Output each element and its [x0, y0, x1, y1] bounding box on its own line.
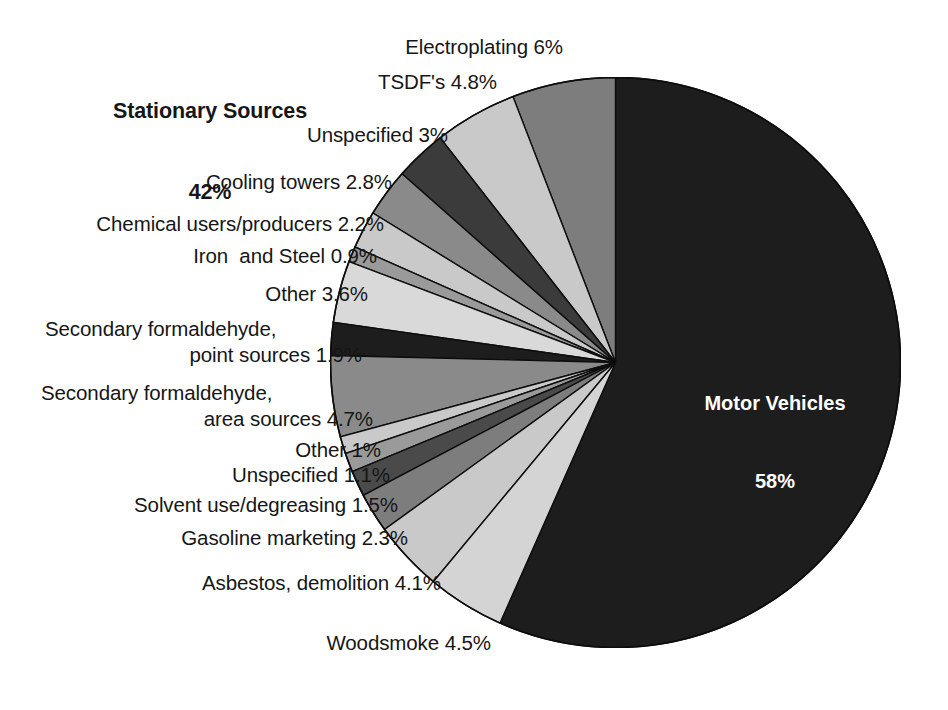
label-other-bottom: Other 1%	[150, 437, 381, 462]
label-iron-steel: Iron and Steel 0.9%	[50, 243, 377, 268]
label-unspecified-bottom: Unspecified 1.1%	[120, 462, 390, 487]
label-sec-formaldehyde-area-line1: Secondary formaldehyde,	[41, 380, 371, 405]
label-gasoline-marketing: Gasoline marketing 2.3%	[60, 525, 408, 550]
label-tsdf: TSDF's 4.8%	[140, 69, 497, 94]
label-unspecified-top: Unspecified 3%	[110, 122, 448, 147]
motor-vehicles-label: Motor Vehicles 58%	[660, 338, 890, 546]
label-chemical-users: Chemical users/producers 2.2%	[20, 211, 384, 236]
label-cooling-towers: Cooling towers 2.8%	[90, 169, 392, 194]
label-sec-formaldehyde-point-line1: Secondary formaldehyde,	[45, 316, 375, 341]
label-woodsmoke: Woodsmoke 4.5%	[230, 630, 491, 655]
label-solvent-degreasing: Solvent use/degreasing 1.5%	[30, 492, 398, 517]
stationary-sources-title: Stationary Sources	[60, 98, 360, 125]
label-sec-formaldehyde-area-line2: area sources 4.7%	[41, 406, 373, 431]
label-other-top: Other 3.6%	[120, 281, 368, 306]
label-asbestos-demolition: Asbestos, demolition 4.1%	[100, 570, 441, 595]
label-electroplating: Electroplating 6%	[180, 34, 563, 59]
chart-canvas: Motor Vehicles 58% Stationary Sources 42…	[0, 0, 948, 710]
motor-vehicles-name: Motor Vehicles	[660, 390, 890, 416]
motor-vehicles-value: 58%	[660, 468, 890, 494]
label-sec-formaldehyde-point-line2: point sources 1.9%	[45, 342, 362, 367]
